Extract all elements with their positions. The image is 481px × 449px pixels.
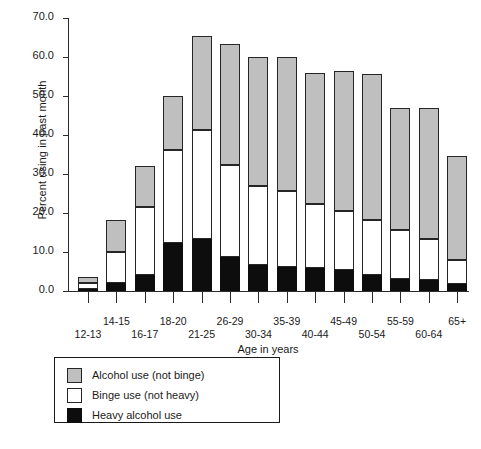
bar-segment-heavy-alcohol[interactable] <box>419 280 439 291</box>
bar-segment-binge-not-heavy[interactable] <box>163 150 183 243</box>
x-axis-tick-label: 40-44 <box>302 328 329 340</box>
bar-segment-heavy-alcohol[interactable] <box>362 275 382 291</box>
bar[interactable] <box>447 156 467 291</box>
bar-segment-binge-not-heavy[interactable] <box>106 252 126 283</box>
y-axis-tick-label: 70.0 <box>33 10 54 22</box>
x-axis-tick <box>88 292 89 303</box>
x-axis-tick <box>116 292 117 303</box>
x-axis-tick-label: 65+ <box>448 315 466 327</box>
bar[interactable] <box>305 73 325 291</box>
bar-segment-heavy-alcohol[interactable] <box>248 265 268 291</box>
bar[interactable] <box>390 108 410 291</box>
plot-area: 0.010.020.030.040.050.060.070.0 12-1314-… <box>68 18 468 291</box>
bar-segment-alcohol-not-binge[interactable] <box>419 108 439 239</box>
bar-segment-binge-not-heavy[interactable] <box>248 186 268 265</box>
bar-segment-alcohol-not-binge[interactable] <box>334 71 354 212</box>
bar-segment-alcohol-not-binge[interactable] <box>220 44 240 165</box>
bar-segment-binge-not-heavy[interactable] <box>305 204 325 268</box>
bar-segment-binge-not-heavy[interactable] <box>362 220 382 276</box>
bar-segment-binge-not-heavy[interactable] <box>334 211 354 270</box>
bar-segment-binge-not-heavy[interactable] <box>220 165 240 257</box>
bar-segment-binge-not-heavy[interactable] <box>277 191 297 267</box>
bar-segment-heavy-alcohol[interactable] <box>277 267 297 291</box>
bar-segment-heavy-alcohol[interactable] <box>106 283 126 291</box>
legend-item[interactable]: Alcohol use (not binge) <box>67 367 205 383</box>
y-axis-tick-label: 30.0 <box>33 166 54 178</box>
bar-segment-binge-not-heavy[interactable] <box>192 130 212 239</box>
y-axis-tick: 0.0 <box>63 291 68 292</box>
bar-segment-alcohol-not-binge[interactable] <box>192 36 212 130</box>
y-axis-tick: 20.0 <box>63 213 68 214</box>
bar[interactable] <box>135 166 155 291</box>
y-axis-tick: 30.0 <box>63 174 68 175</box>
bar-segment-heavy-alcohol[interactable] <box>135 275 155 291</box>
legend-item[interactable]: Binge use (not heavy) <box>67 387 199 403</box>
bar[interactable] <box>220 44 240 291</box>
x-axis-tick-label: 26-29 <box>217 315 244 327</box>
x-axis-tick <box>230 292 231 303</box>
x-axis-tick-label: 50-54 <box>359 328 386 340</box>
stacked-bar-chart-figure: Percent using in past month 0.010.020.03… <box>0 0 481 449</box>
legend-swatch <box>67 408 82 423</box>
bar-segment-heavy-alcohol[interactable] <box>390 279 410 291</box>
bar-segment-heavy-alcohol[interactable] <box>447 284 467 291</box>
y-axis-line <box>68 18 69 292</box>
bar-segment-alcohol-not-binge[interactable] <box>305 73 325 204</box>
legend-item[interactable]: Heavy alcohol use <box>67 407 182 423</box>
y-axis-tick-label: 20.0 <box>33 205 54 217</box>
bar-segment-alcohol-not-binge[interactable] <box>390 108 410 230</box>
chart-legend: Alcohol use (not binge)Binge use (not he… <box>54 357 280 423</box>
bar-segment-alcohol-not-binge[interactable] <box>106 220 126 252</box>
y-axis-tick-label: 40.0 <box>33 127 54 139</box>
bar-segment-heavy-alcohol[interactable] <box>78 289 98 291</box>
bar-segment-heavy-alcohol[interactable] <box>305 268 325 291</box>
bar[interactable] <box>163 96 183 291</box>
bar-segment-heavy-alcohol[interactable] <box>192 239 212 291</box>
x-axis-tick <box>372 292 373 303</box>
x-axis-title: Age in years <box>68 343 468 355</box>
bar-segment-alcohol-not-binge[interactable] <box>447 156 467 260</box>
x-axis-tick-label: 16-17 <box>131 328 158 340</box>
bar-segment-heavy-alcohol[interactable] <box>334 270 354 291</box>
bar-segment-alcohol-not-binge[interactable] <box>362 74 382 219</box>
x-axis-tick-label: 55-59 <box>387 315 414 327</box>
legend-label: Alcohol use (not binge) <box>92 369 205 381</box>
bar-segment-binge-not-heavy[interactable] <box>390 230 410 279</box>
y-axis-tick: 40.0 <box>63 135 68 136</box>
x-axis-tick <box>429 292 430 303</box>
bar-segment-binge-not-heavy[interactable] <box>135 207 155 275</box>
y-axis-tick-label: 0.0 <box>39 283 54 295</box>
bar-segment-heavy-alcohol[interactable] <box>220 257 240 291</box>
x-axis-tick-label: 60-64 <box>415 328 442 340</box>
bar-segment-binge-not-heavy[interactable] <box>447 260 467 284</box>
bar-segment-alcohol-not-binge[interactable] <box>135 166 155 207</box>
x-axis-tick-label: 21-25 <box>188 328 215 340</box>
legend-swatch <box>67 368 82 383</box>
x-axis-tick-label: 18-20 <box>160 315 187 327</box>
y-axis-title: Percent using in past month <box>36 30 48 270</box>
x-axis-tick <box>315 292 316 303</box>
bar[interactable] <box>362 74 382 291</box>
y-axis-tick-label: 60.0 <box>33 49 54 61</box>
x-axis-tick <box>173 292 174 303</box>
y-axis-tick: 70.0 <box>63 18 68 19</box>
bar-segment-alcohol-not-binge[interactable] <box>163 96 183 150</box>
bar-segment-heavy-alcohol[interactable] <box>163 243 183 291</box>
y-axis-tick: 60.0 <box>63 57 68 58</box>
bar-segment-alcohol-not-binge[interactable] <box>277 57 297 190</box>
x-axis-tick <box>258 292 259 303</box>
y-axis-tick: 10.0 <box>63 252 68 253</box>
y-axis-tick-label: 50.0 <box>33 88 54 100</box>
bar-segment-binge-not-heavy[interactable] <box>419 239 439 281</box>
x-axis-tick <box>457 292 458 303</box>
bar[interactable] <box>248 57 268 291</box>
bar[interactable] <box>78 277 98 291</box>
bar[interactable] <box>334 71 354 291</box>
bar-segment-alcohol-not-binge[interactable] <box>248 57 268 185</box>
bar[interactable] <box>106 220 126 291</box>
bar[interactable] <box>419 108 439 291</box>
bar[interactable] <box>277 57 297 291</box>
bar-segment-alcohol-not-binge[interactable] <box>78 277 98 283</box>
y-axis-tick-label: 10.0 <box>33 244 54 256</box>
bar[interactable] <box>192 36 212 291</box>
